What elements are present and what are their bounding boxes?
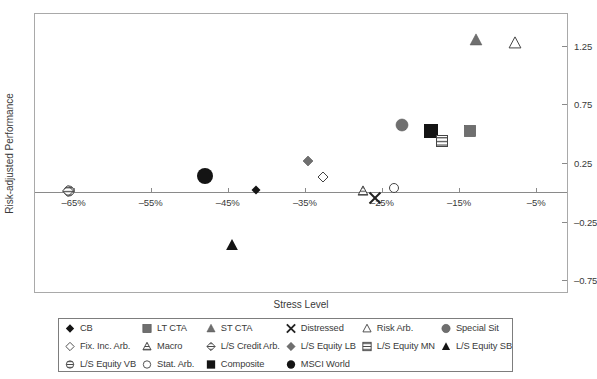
plot-frame: –65%–55%–45%–35%–25%–15%–5% [34,13,568,293]
legend-item-label: CB [80,319,93,337]
open-circle-icon [141,358,153,370]
legend-item[interactable]: L/S Credit Arb. [200,337,280,355]
data-point-special-sit [394,117,410,133]
x-tick-label: –65% [62,197,86,208]
legend-item-label: L/S Equity SB [456,337,512,355]
filled-diamond-icon [64,322,76,334]
legend-item[interactable]: Distressed [280,319,356,337]
legend-item-label: LT CTA [157,319,187,337]
legend-item-label: Macro [157,337,182,355]
y-tick-mark [562,104,567,105]
y-tick-label: –0.25 [574,216,597,227]
data-point-risk-arb [507,35,523,51]
legend-item[interactable]: L/S Equity SB [435,337,512,355]
y-tick-label: 0.25 [574,157,592,168]
x-tick-mark [536,188,537,192]
legend-item[interactable]: L/S Equity VB [59,355,136,373]
x-tick-mark [305,188,306,192]
data-point-l-s-equity-mn [435,133,450,148]
legend-item[interactable]: Composite [200,355,280,373]
legend-item[interactable]: Macro [136,337,200,355]
y-tick-mark [562,46,567,47]
gray-circle-icon [440,322,452,334]
data-point-msci-world [195,166,215,186]
legend-item-label: MSCI World [301,355,350,373]
x-tick-mark [228,188,229,192]
y-tick-label: 1.25 [574,40,592,51]
y-tick-label: 0.75 [574,99,592,110]
y-axis-title: Risk-adjusted Performance [2,13,16,293]
legend-item[interactable]: Special Sit [435,319,512,337]
legend-item-label: Special Sit [456,319,499,337]
chart-legend: CBLT CTAST CTADistressedRisk Arb.Special… [58,318,513,372]
data-point-l-s-equity-lb [301,154,315,168]
y-tick-mark [562,222,567,223]
x-axis-line [35,192,567,193]
y-tick-label: –0.75 [574,275,597,286]
data-point-fix-inc-arb [316,170,330,184]
x-tick-mark [459,188,460,192]
legend-item[interactable]: ST CTA [200,319,280,337]
legend-item-label: ST CTA [221,319,253,337]
y-axis-title-text: Risk-adjusted Performance [4,93,15,214]
filled-circle-icon [285,358,297,370]
x-axis-title: Stress Level [34,299,568,310]
legend-item[interactable]: Fix. Inc. Arb. [59,337,136,355]
x-tick-label: –35% [293,197,317,208]
data-point-l-s-credit-arb [61,184,76,199]
striped-square-icon [361,340,373,352]
open-diamond-icon [64,340,76,352]
data-point-lt-cta [462,124,477,139]
data-point-l-s-equity-sb [224,237,240,253]
x-tick-label: –45% [216,197,240,208]
legend-item[interactable]: CB [59,319,136,337]
plot-area: –65%–55%–45%–35%–25%–15%–5% [35,14,567,292]
x-tick-label: –15% [447,197,471,208]
data-point-st-cta [468,32,484,48]
legend-item-label: L/S Equity MN [377,337,435,355]
legend-item[interactable]: LT CTA [136,319,200,337]
legend-item-label: Composite [221,355,265,373]
legend-item-label: Fix. Inc. Arb. [80,337,130,355]
legend-grid: CBLT CTAST CTADistressedRisk Arb.Special… [59,319,512,371]
legend-item-label: L/S Credit Arb. [221,337,280,355]
legend-item-label: L/S Equity LB [301,337,356,355]
gray-triangle-icon [205,322,217,334]
legend-item[interactable]: Risk Arb. [356,319,435,337]
legend-item-label: L/S Equity VB [80,355,136,373]
gray-square-icon [141,322,153,334]
x-tick-label: –5% [527,197,546,208]
x-tick-mark [151,188,152,192]
x-cross-icon [285,322,297,334]
legend-item[interactable]: Stat. Arb. [136,355,200,373]
y-tick-mark [562,163,567,164]
data-point-distressed [368,191,383,206]
data-point-stat-arb [387,181,401,195]
y-tick-mark [562,280,567,281]
legend-item[interactable]: MSCI World [280,355,356,373]
filled-square-icon [205,358,217,370]
open-triangle-icon [361,322,373,334]
gray-diamond-icon [285,340,297,352]
legend-item[interactable]: L/S Equity LB [280,337,356,355]
striped-triangle-icon [141,340,153,352]
data-point-cb [250,183,263,196]
x-tick-label: –55% [139,197,163,208]
legend-item-label: Stat. Arb. [157,355,194,373]
striped-diamond-icon [205,340,217,352]
legend-item[interactable]: L/S Equity MN [356,337,435,355]
striped-circle-icon [64,358,76,370]
legend-item-label: Distressed [301,319,344,337]
filled-triangle-icon [440,340,452,352]
legend-item-label: Risk Arb. [377,319,413,337]
